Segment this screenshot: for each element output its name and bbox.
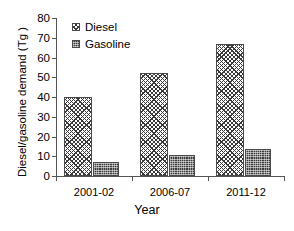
y-tick-mark xyxy=(52,97,56,98)
bar-diesel-2001-02 xyxy=(64,97,92,176)
x-category-label: 2001-02 xyxy=(74,186,114,198)
x-axis-line xyxy=(56,176,285,177)
x-separator-tick xyxy=(208,176,209,181)
x-separator-tick xyxy=(56,176,57,181)
y-tick-label: 60 xyxy=(37,52,50,64)
y-axis-title: Diesel/gasoline demand (Tg ) xyxy=(16,16,28,188)
y-tick-mark xyxy=(52,117,56,118)
x-category-label: 2011-12 xyxy=(226,186,266,198)
legend-swatch-diesel-icon xyxy=(72,23,80,31)
legend-item-gasoline: Gasoline xyxy=(72,37,130,51)
y-tick-mark xyxy=(52,77,56,78)
bar-gasoline-2011-12 xyxy=(245,149,271,176)
y-tick-label: 40 xyxy=(37,91,50,103)
y-tick-mark xyxy=(52,156,56,157)
y-tick-label: 0 xyxy=(44,170,50,182)
legend-label-gasoline: Gasoline xyxy=(85,37,130,51)
y-tick-label: 50 xyxy=(37,71,50,83)
bar-chart: Diesel/gasoline demand (Tg ) 01020304050… xyxy=(0,0,294,231)
bar-diesel-2006-07 xyxy=(140,73,168,176)
legend-label-diesel: Diesel xyxy=(85,20,117,34)
legend-swatch-gasoline-icon xyxy=(72,40,80,48)
x-category-label: 2006-07 xyxy=(150,186,190,198)
y-tick-label: 30 xyxy=(37,111,50,123)
x-separator-tick xyxy=(132,176,133,181)
y-tick-label: 10 xyxy=(37,150,50,162)
bar-gasoline-2001-02 xyxy=(93,162,119,176)
chart-legend: Diesel Gasoline xyxy=(72,20,130,54)
y-tick-label: 80 xyxy=(37,12,50,24)
y-tick-mark xyxy=(52,38,56,39)
y-tick-mark xyxy=(52,137,56,138)
x-axis-title: Year xyxy=(0,203,294,217)
bar-gasoline-2006-07 xyxy=(169,155,195,176)
bar-diesel-2011-12 xyxy=(216,44,244,176)
y-tick-mark xyxy=(52,18,56,19)
legend-item-diesel: Diesel xyxy=(72,20,130,34)
y-tick-label: 70 xyxy=(37,32,50,44)
y-tick-mark xyxy=(52,58,56,59)
x-separator-tick xyxy=(284,176,285,181)
y-tick-label: 20 xyxy=(37,131,50,143)
